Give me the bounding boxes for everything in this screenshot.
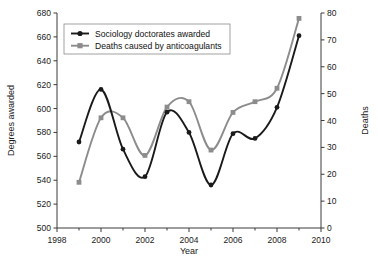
y-axis-right-tick-label: 20	[327, 169, 337, 179]
y-axis-left-title: Degrees awarded	[6, 85, 16, 156]
series-line-0	[79, 36, 299, 185]
y-axis-right-tick-label: 80	[327, 8, 337, 18]
chart-legend: Sociology doctorates awardedDeaths cause…	[64, 24, 230, 54]
data-point-marker	[231, 131, 236, 136]
legend-square-marker-icon	[77, 43, 82, 48]
y-axis-left-tick-label: 580	[37, 127, 51, 137]
x-axis-tick-label: 2000	[92, 235, 111, 245]
data-point-marker	[77, 180, 82, 185]
x-axis-tick-label: 2010	[312, 235, 331, 245]
y-axis-left-tick-label: 680	[37, 8, 51, 18]
data-point-marker	[121, 147, 126, 152]
data-point-marker	[253, 99, 258, 104]
data-point-marker	[121, 115, 126, 120]
data-point-marker	[253, 136, 258, 141]
data-point-marker	[99, 87, 104, 92]
y-axis-right-tick-label: 40	[327, 116, 337, 126]
chart-container: 5005205405605806006206406606800102030405…	[0, 0, 378, 277]
y-axis-right-tick-label: 70	[327, 35, 337, 45]
y-axis-right-tick-label: 50	[327, 89, 337, 99]
y-axis-left-tick-label: 620	[37, 80, 51, 90]
series-sociology-doctorates	[77, 33, 302, 187]
data-point-marker	[231, 110, 236, 115]
x-axis-tick-label: 2008	[268, 235, 287, 245]
data-point-marker	[77, 140, 82, 145]
x-axis-title: Year	[180, 246, 198, 256]
x-axis-tick-label: 2004	[180, 235, 199, 245]
data-point-marker	[143, 174, 148, 179]
x-axis-tick-label: 2002	[136, 235, 155, 245]
y-axis-left-tick-label: 640	[37, 56, 51, 66]
legend-entry-label: Sociology doctorates awarded	[95, 29, 210, 39]
data-point-marker	[297, 33, 302, 38]
y-axis-right-tick-label: 60	[327, 62, 337, 72]
y-axis-left-tick-label: 600	[37, 104, 51, 114]
data-point-marker	[99, 115, 104, 120]
data-point-marker	[275, 86, 280, 91]
data-point-marker	[187, 99, 192, 104]
x-axis-tick-label: 2006	[224, 235, 243, 245]
y-axis-left-tick-label: 660	[37, 32, 51, 42]
data-point-marker	[209, 148, 214, 153]
y-axis-right-tick-label: 10	[327, 196, 337, 206]
y-axis-left-tick-label: 540	[37, 175, 51, 185]
y-axis-left-tick-label: 560	[37, 151, 51, 161]
data-point-marker	[165, 105, 170, 110]
y-axis-right-title: Deaths	[360, 106, 370, 135]
legend-circle-marker-icon	[77, 31, 82, 36]
data-point-marker	[297, 16, 302, 21]
data-point-marker	[165, 110, 170, 115]
dual-axis-line-chart: 5005205405605806006206406606800102030405…	[0, 0, 378, 277]
x-axis-tick-label: 1998	[48, 235, 67, 245]
legend-entry-label: Deaths caused by anticoagulants	[95, 41, 222, 51]
data-point-marker	[275, 105, 280, 110]
data-point-marker	[143, 153, 148, 158]
data-point-marker	[187, 130, 192, 135]
data-point-marker	[209, 183, 214, 188]
y-axis-left-tick-label: 520	[37, 199, 51, 209]
y-axis-left-tick-label: 500	[37, 223, 51, 233]
y-axis-right-tick-label: 30	[327, 142, 337, 152]
y-axis-right-tick-label: 0	[327, 223, 332, 233]
